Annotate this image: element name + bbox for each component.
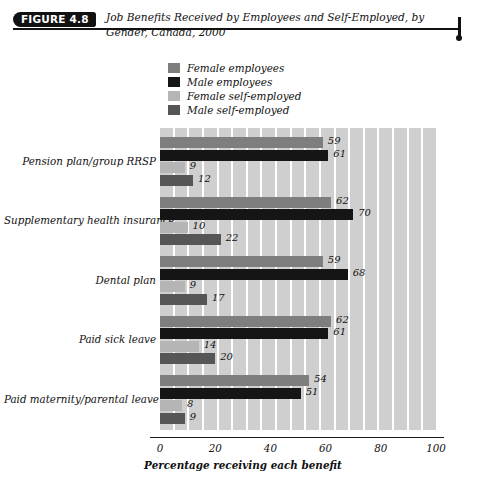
bar-row: 8 xyxy=(160,400,436,411)
bar xyxy=(160,341,199,352)
bar-value-label: 17 xyxy=(212,292,225,303)
bar xyxy=(160,294,207,305)
bar xyxy=(160,269,348,280)
chart-plot-area: Pension plan/group RRSP5961912Supplement… xyxy=(160,128,436,430)
x-axis-tick-label: 100 xyxy=(426,442,446,454)
bar xyxy=(160,400,182,411)
bar-value-label: 20 xyxy=(220,351,233,362)
bar xyxy=(160,234,221,245)
bar-group: Paid maternity/parental leave545189 xyxy=(160,375,436,425)
bar-row: 20 xyxy=(160,353,436,364)
bar-row: 70 xyxy=(160,209,436,220)
bar-value-label: 51 xyxy=(306,386,319,397)
bar xyxy=(160,256,323,267)
category-label: Dental plan xyxy=(4,274,156,286)
category-label: Paid sick leave xyxy=(4,333,156,345)
bar-row: 62 xyxy=(160,197,436,208)
bar-value-label: 59 xyxy=(328,135,341,146)
bar xyxy=(160,197,331,208)
bar-row: 61 xyxy=(160,150,436,161)
bar-value-label: 61 xyxy=(333,148,346,159)
bar-value-label: 9 xyxy=(190,411,196,422)
bar-value-label: 10 xyxy=(193,220,206,231)
bar xyxy=(160,375,309,386)
bar xyxy=(160,150,328,161)
bar-value-label: 9 xyxy=(190,279,196,290)
bar-group: Dental plan5968917 xyxy=(160,256,436,306)
bar xyxy=(160,281,185,292)
x-axis-tick-label: 20 xyxy=(209,442,222,454)
bar-row: 14 xyxy=(160,341,436,352)
bar-row: 54 xyxy=(160,375,436,386)
chart-bar-groups: Pension plan/group RRSP5961912Supplement… xyxy=(160,128,436,430)
bar-value-label: 54 xyxy=(314,373,327,384)
bar-row: 61 xyxy=(160,328,436,339)
bar-group: Supplementary health insurance62701022 xyxy=(160,197,436,247)
bar-value-label: 62 xyxy=(336,314,349,325)
bar-value-label: 62 xyxy=(336,195,349,206)
bar-row: 62 xyxy=(160,316,436,327)
chart-plot-wrap: Pension plan/group RRSP5961912Supplement… xyxy=(0,0,486,482)
bar-row: 10 xyxy=(160,222,436,233)
bar-row: 9 xyxy=(160,413,436,424)
x-axis-tick-label: 80 xyxy=(374,442,387,454)
bar-row: 59 xyxy=(160,137,436,148)
bar-value-label: 68 xyxy=(353,267,366,278)
bar-row: 9 xyxy=(160,162,436,173)
bar-row: 9 xyxy=(160,281,436,292)
bar-row: 68 xyxy=(160,269,436,280)
bar xyxy=(160,209,353,220)
bar-row: 51 xyxy=(160,388,436,399)
category-label: Paid maternity/parental leave xyxy=(4,393,156,405)
x-axis-tick-label: 60 xyxy=(319,442,332,454)
bar xyxy=(160,353,215,364)
bar-value-label: 8 xyxy=(187,398,193,409)
x-axis-title: Percentage receiving each benefit xyxy=(0,459,486,471)
bar-value-label: 59 xyxy=(328,254,341,265)
bar-row: 17 xyxy=(160,294,436,305)
bar xyxy=(160,222,188,233)
bar-value-label: 61 xyxy=(333,326,346,337)
bar xyxy=(160,328,328,339)
bar xyxy=(160,413,185,424)
bar xyxy=(160,316,331,327)
bar-row: 59 xyxy=(160,256,436,267)
bar xyxy=(160,388,301,399)
bar xyxy=(160,137,323,148)
category-label: Supplementary health insurance xyxy=(4,214,156,226)
category-label: Pension plan/group RRSP xyxy=(4,155,156,167)
bar-group: Paid sick leave62611420 xyxy=(160,316,436,366)
bar-row: 12 xyxy=(160,175,436,186)
bar-value-label: 70 xyxy=(358,207,371,218)
bar-value-label: 12 xyxy=(198,173,211,184)
x-axis-tick-label: 40 xyxy=(264,442,277,454)
bar-value-label: 22 xyxy=(226,232,239,243)
bar-value-label: 14 xyxy=(204,339,217,350)
bar xyxy=(160,175,193,186)
bar-value-label: 9 xyxy=(190,160,196,171)
bar-row: 22 xyxy=(160,234,436,245)
bar-group: Pension plan/group RRSP5961912 xyxy=(160,137,436,187)
x-axis-line xyxy=(150,437,444,438)
bar xyxy=(160,162,185,173)
x-axis-tick-label: 0 xyxy=(157,442,164,454)
